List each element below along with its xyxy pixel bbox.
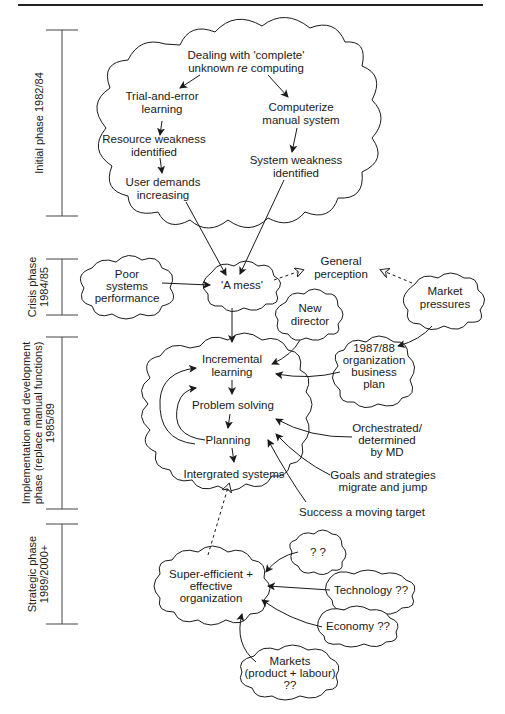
svg-text:organization: organization xyxy=(343,354,406,366)
phase-label-strategic: Strategic phase 1989/2000+ xyxy=(26,536,50,612)
svg-text:1985/89: 1985/89 xyxy=(44,403,56,443)
svg-text:performance: performance xyxy=(95,292,160,304)
svg-text:Markets: Markets xyxy=(270,655,311,667)
dashed-super-to-integrated xyxy=(208,484,229,555)
phase-label-crisis: Crisis phase 1984/85 xyxy=(26,257,50,318)
node-dealing-unknown: Dealing with 'complete' unknown re compu… xyxy=(188,49,305,74)
arrow-economy-to-super xyxy=(262,600,322,627)
svg-text:Strategic phase: Strategic phase xyxy=(26,536,38,612)
svg-text:Goals and strategies: Goals and strategies xyxy=(330,469,436,481)
svg-text:Incremental: Incremental xyxy=(202,353,262,365)
node-unknown: ? ? xyxy=(310,546,326,558)
svg-text:increasing: increasing xyxy=(137,189,189,201)
phase-diagram: Initial phase 1982/84 Crisis phase 1984/… xyxy=(0,0,505,714)
svg-text:manual system: manual system xyxy=(262,114,339,126)
svg-text:business: business xyxy=(351,366,397,378)
svg-text:systems: systems xyxy=(106,280,148,292)
phase-label-initial: Initial phase 1982/84 xyxy=(33,72,45,174)
node-economy: Economy ?? xyxy=(326,620,390,632)
svg-text:learning: learning xyxy=(142,103,183,115)
phase-bar-crisis xyxy=(46,259,78,315)
svg-text:Dealing with 'complete': Dealing with 'complete' xyxy=(188,49,305,61)
document-page: Initial phase 1982/84 Crisis phase 1984/… xyxy=(0,0,505,714)
svg-text:phase (replace manual function: phase (replace manual functions) xyxy=(32,342,44,505)
node-planning: Planning xyxy=(206,434,251,446)
node-general-perception: General perception xyxy=(314,255,368,280)
svg-text:1984/85: 1984/85 xyxy=(38,267,50,307)
svg-text:pressures: pressures xyxy=(420,298,471,310)
node-a-mess: 'A mess' xyxy=(221,279,263,291)
svg-text:??: ?? xyxy=(284,679,297,691)
svg-text:System weakness: System weakness xyxy=(250,154,343,166)
node-success-moving-target: Success a moving target xyxy=(299,506,426,518)
svg-text:perception: perception xyxy=(314,268,368,280)
svg-text:plan: plan xyxy=(363,378,385,390)
svg-text:General: General xyxy=(321,255,362,267)
svg-text:Trial-and-error: Trial-and-error xyxy=(125,90,198,102)
svg-text:organization: organization xyxy=(180,592,243,604)
svg-text:Super-efficient +: Super-efficient + xyxy=(169,568,253,580)
svg-text:Implementation and development: Implementation and development xyxy=(20,342,32,505)
svg-text:migrate and jump: migrate and jump xyxy=(339,481,428,493)
phase-label-implementation: Implementation and development phase (re… xyxy=(20,342,56,505)
dashed-market-to-perception xyxy=(381,270,412,283)
svg-text:Crisis phase: Crisis phase xyxy=(26,257,38,318)
svg-text:Orchestrated/: Orchestrated/ xyxy=(352,422,422,434)
svg-text:1989/2000+: 1989/2000+ xyxy=(38,545,50,603)
node-technology: Technology ?? xyxy=(334,584,408,596)
phase-bar-strategic xyxy=(46,524,78,624)
node-problem-solving: Problem solving xyxy=(192,399,274,411)
svg-text:unknown re computing: unknown re computing xyxy=(188,62,304,74)
svg-text:learning: learning xyxy=(212,366,253,378)
svg-text:determined: determined xyxy=(358,434,416,446)
svg-text:User demands: User demands xyxy=(126,176,201,188)
svg-text:director: director xyxy=(291,315,330,327)
node-goals-strategies: Goals and strategies migrate and jump xyxy=(330,469,436,493)
node-orchestrated: Orchestrated/ determined by MD xyxy=(352,422,422,458)
node-integrated-systems: Intergrated systems xyxy=(184,468,285,480)
svg-text:by MD: by MD xyxy=(370,446,403,458)
svg-text:(product + labour): (product + labour) xyxy=(244,667,335,679)
svg-text:identified: identified xyxy=(273,167,319,179)
svg-text:1987/88: 1987/88 xyxy=(353,342,395,354)
node-computerize: Computerize manual system xyxy=(262,101,339,126)
svg-text:Resource weakness: Resource weakness xyxy=(102,133,206,145)
svg-text:Computerize: Computerize xyxy=(268,101,333,113)
svg-text:Market: Market xyxy=(427,285,463,297)
svg-text:effective: effective xyxy=(190,580,233,592)
phase-bar-initial xyxy=(46,30,78,216)
svg-text:identified: identified xyxy=(131,146,177,158)
svg-text:New: New xyxy=(298,302,322,314)
svg-text:Poor: Poor xyxy=(115,268,139,280)
arrow-technology-to-super xyxy=(268,586,330,590)
